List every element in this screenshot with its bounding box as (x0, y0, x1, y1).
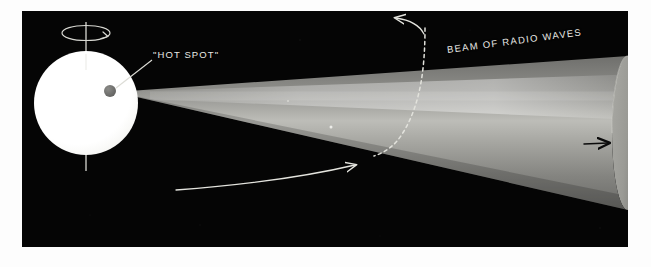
figure-canvas: "HOT SPOT" BEAM OF RADIO WAVES (0, 0, 651, 267)
beam-speck (330, 126, 333, 129)
beam-speck (287, 100, 289, 102)
pulsar-diagram (0, 0, 651, 267)
hot-spot-marker (104, 85, 116, 97)
propagation-arrow (584, 143, 608, 144)
